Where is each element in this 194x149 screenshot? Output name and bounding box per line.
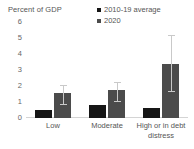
x-axis-category-labels: LowModerateHigh or in debt distress xyxy=(26,121,188,147)
chart-container: Percent of GDP 2010-19 average 2020 0123… xyxy=(0,0,194,149)
bar-group xyxy=(134,22,188,118)
bar-2010-19-average xyxy=(35,110,52,118)
y-axis-tick-label: 3 xyxy=(2,66,22,74)
error-bar-2020 xyxy=(63,86,64,105)
y-axis-tick-label: 5 xyxy=(2,34,22,42)
error-bar-2020 xyxy=(117,83,118,102)
error-bar-cap-upper xyxy=(60,85,67,86)
x-axis-category-label: High or in debt distress xyxy=(128,121,194,140)
plot-area: 0123456 xyxy=(26,22,188,118)
y-axis-tick-label: 6 xyxy=(2,18,22,26)
y-axis-tick-label: 2 xyxy=(2,82,22,90)
y-axis-title: Percent of GDP xyxy=(8,5,62,14)
y-axis-tick-label: 1 xyxy=(2,98,22,106)
error-bar-2020 xyxy=(171,36,172,92)
y-axis-tick-label: 0 xyxy=(2,114,22,122)
legend-label-2010-19-average: 2010-19 average xyxy=(104,6,161,14)
error-bar-cap-lower xyxy=(168,91,175,92)
bar-group xyxy=(80,22,134,118)
bar-group xyxy=(26,22,80,118)
legend-item-2010-19-average: 2010-19 average xyxy=(97,5,161,15)
error-bar-cap-upper xyxy=(168,35,175,36)
y-axis-tick-label: 4 xyxy=(2,50,22,58)
legend-swatch-icon-2010-19-average xyxy=(97,8,101,12)
bar-2010-19-average xyxy=(143,108,160,118)
error-bar-cap-lower xyxy=(60,104,67,105)
error-bar-cap-lower xyxy=(114,101,121,102)
error-bar-cap-upper xyxy=(114,82,121,83)
bar-2010-19-average xyxy=(89,105,106,118)
